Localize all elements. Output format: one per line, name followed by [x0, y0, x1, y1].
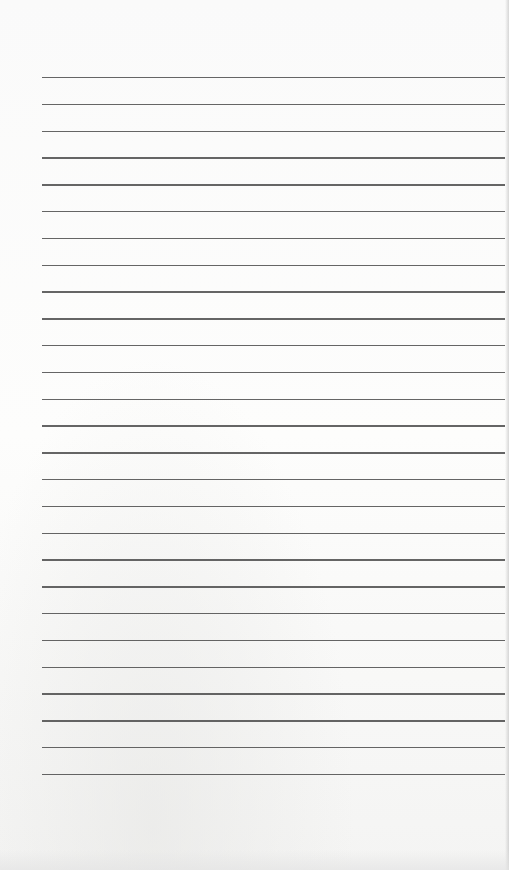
ruled-line — [42, 667, 505, 668]
ruled-line — [42, 318, 505, 319]
page-bottom-shade — [0, 850, 509, 870]
ruled-line — [42, 345, 505, 346]
ruled-line — [42, 265, 505, 266]
ruled-line — [42, 693, 505, 694]
ruled-lines — [42, 0, 505, 870]
ruled-line — [42, 640, 505, 641]
page-edge-shadow — [505, 0, 509, 870]
ruled-line — [42, 774, 505, 775]
ruled-line — [42, 157, 505, 158]
ruled-line — [42, 238, 505, 239]
ruled-line — [42, 291, 505, 292]
ruled-line — [42, 747, 505, 748]
ruled-line — [42, 452, 505, 453]
ruled-line — [42, 372, 505, 373]
ruled-line — [42, 559, 505, 560]
ruled-line — [42, 533, 505, 534]
ruled-line — [42, 131, 505, 132]
ruled-line — [42, 613, 505, 614]
ruled-line — [42, 425, 505, 426]
ruled-line — [42, 479, 505, 480]
ruled-line — [42, 77, 505, 78]
ruled-line — [42, 586, 505, 587]
lined-paper-page — [0, 0, 509, 870]
ruled-line — [42, 720, 505, 721]
ruled-line — [42, 399, 505, 400]
ruled-line — [42, 506, 505, 507]
ruled-line — [42, 211, 505, 212]
ruled-line — [42, 104, 505, 105]
ruled-line — [42, 184, 505, 185]
